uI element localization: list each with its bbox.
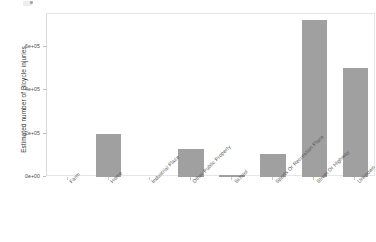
y-tick-label: 2e+05 <box>0 130 40 136</box>
y-tick-mark <box>43 176 46 177</box>
y-tick-label: 6e+05 <box>0 43 40 49</box>
y-tick-label: 4e+05 <box>0 86 40 92</box>
plot-panel <box>46 13 375 176</box>
artifact-dot <box>30 1 33 4</box>
bar-chart: Estimated number of Bicycle injuries 0e+… <box>0 0 376 242</box>
y-tick-label: 0e+00 <box>0 173 40 179</box>
bar <box>343 68 368 177</box>
